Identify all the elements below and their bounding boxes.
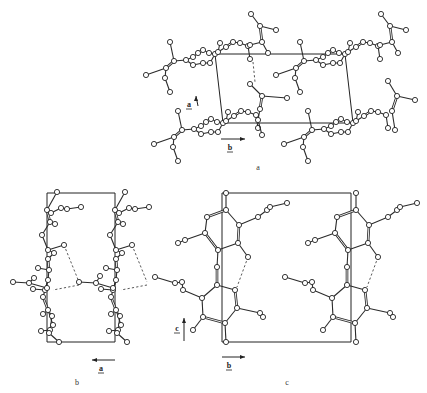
atom: [337, 60, 342, 65]
atom: [56, 339, 61, 344]
bond: [239, 217, 258, 225]
axis-label: a: [187, 100, 191, 109]
atom: [215, 247, 220, 252]
atom: [167, 89, 172, 94]
atom: [44, 285, 49, 290]
atom: [93, 280, 98, 285]
atom: [245, 254, 250, 259]
atom: [175, 158, 180, 163]
atom: [31, 275, 36, 280]
atom: [26, 280, 31, 285]
atom: [113, 256, 118, 261]
atom: [347, 40, 352, 45]
atom: [292, 75, 297, 80]
arrowhead-icon: [240, 137, 245, 141]
atom: [330, 314, 335, 319]
atom: [255, 117, 260, 122]
atom: [237, 40, 242, 45]
atom: [108, 311, 113, 316]
atom: [206, 50, 211, 55]
molecule: [76, 273, 115, 290]
atom: [208, 129, 213, 134]
atom: [247, 42, 252, 47]
atom: [223, 44, 228, 49]
molecule: [385, 78, 417, 132]
bond: [285, 277, 305, 283]
atom: [260, 314, 265, 319]
atom: [368, 108, 373, 113]
bond: [315, 233, 335, 240]
atom: [61, 242, 66, 247]
molecule: [143, 39, 252, 94]
bond: [369, 217, 388, 225]
atom: [235, 240, 240, 245]
atom: [113, 247, 118, 252]
atom: [49, 313, 54, 318]
atom: [54, 189, 59, 194]
atom: [344, 264, 349, 269]
atom: [313, 57, 318, 62]
axis-label: c: [175, 324, 179, 333]
atom: [151, 141, 156, 146]
atom: [45, 277, 50, 282]
molecule: [30, 189, 83, 344]
atom: [301, 134, 306, 139]
atom: [190, 54, 195, 59]
atom: [146, 204, 151, 209]
molecule: [152, 190, 289, 344]
atom: [389, 108, 394, 113]
atom: [364, 305, 369, 310]
atom: [259, 39, 264, 44]
atom: [120, 221, 125, 226]
bond: [218, 243, 238, 250]
axis-c-indicator: c: [174, 318, 186, 341]
atom: [200, 60, 205, 65]
atom: [47, 219, 52, 224]
atom: [162, 75, 167, 80]
atom: [39, 232, 44, 237]
hydrogen-bond: [53, 285, 79, 290]
bond: [146, 68, 166, 75]
atom: [48, 210, 53, 215]
bond: [115, 192, 125, 210]
atom: [118, 322, 123, 327]
atom: [179, 127, 184, 132]
axis-label: b: [228, 143, 233, 152]
atom: [115, 219, 120, 224]
atom: [190, 62, 195, 67]
atom: [397, 204, 402, 209]
crystal-packing-figure: ab a cb a b c: [0, 0, 427, 393]
atom: [248, 11, 253, 16]
atom: [191, 126, 196, 131]
atom: [238, 108, 243, 113]
atom: [257, 106, 262, 111]
atom: [223, 339, 228, 344]
atom: [257, 23, 262, 28]
atom: [195, 50, 200, 55]
double-bond-inner: [335, 233, 348, 250]
atom: [247, 56, 252, 61]
bond: [367, 308, 390, 313]
atom: [171, 58, 176, 63]
bond: [284, 137, 304, 144]
bond: [276, 68, 296, 75]
atom: [51, 250, 56, 255]
atom: [367, 40, 372, 45]
atom: [387, 23, 392, 28]
molecule: [273, 39, 382, 94]
axis-b-indicator: b: [222, 355, 245, 370]
molecule: [281, 108, 390, 163]
atom: [390, 314, 395, 319]
atom: [353, 207, 358, 212]
atom: [214, 282, 219, 287]
atom: [175, 240, 180, 245]
atom: [119, 250, 124, 255]
atom: [320, 327, 325, 332]
atom: [207, 60, 212, 65]
atom: [282, 274, 287, 279]
atom: [412, 97, 417, 102]
atom: [122, 189, 127, 194]
atom: [330, 47, 335, 52]
axis-a-indicator: a: [186, 96, 198, 109]
atom: [10, 279, 15, 284]
